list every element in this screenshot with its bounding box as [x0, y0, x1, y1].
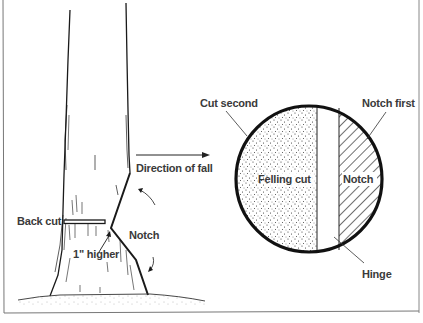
- hinge-region: [317, 100, 339, 260]
- one-inch-higher-label: 1" higher: [73, 248, 119, 260]
- ground: [18, 294, 205, 306]
- hinge-label: Hinge: [362, 268, 392, 280]
- tree-felling-diagram: Direction of fall Back cut Notch 1" high…: [0, 0, 423, 323]
- notch-side-label: Notch: [129, 229, 159, 241]
- notch-first-label: Notch first: [362, 97, 415, 109]
- cut-second-label: Cut second: [200, 97, 258, 109]
- back-cut-label: Back cut: [17, 215, 61, 227]
- direction-of-fall-arrow: [136, 152, 210, 158]
- notch-top-label: Notch: [343, 173, 373, 185]
- felling-cut-label: Felling cut: [258, 173, 311, 185]
- direction-of-fall-label: Direction of fall: [136, 162, 213, 174]
